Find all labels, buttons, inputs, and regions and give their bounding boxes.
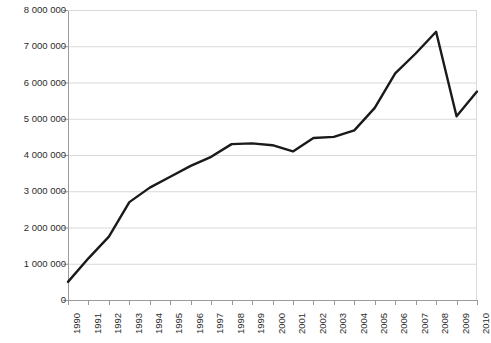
x-axis-tick-label: 2008: [440, 313, 450, 334]
x-axis-tick-label: 2010: [481, 313, 491, 334]
x-axis-tick-label: 2000: [277, 313, 287, 334]
x-axis-tick-label: 1999: [256, 313, 266, 334]
x-axis-tick-label: 1995: [174, 313, 184, 334]
x-axis-tick-label: 1993: [134, 313, 144, 334]
x-axis-tick-label: 2004: [359, 313, 369, 334]
line-chart: 01 000 0002 000 0003 000 0004 000 0005 0…: [0, 0, 491, 343]
x-axis-tick-label: 2003: [338, 313, 348, 334]
x-axis-tick-label: 1991: [93, 313, 103, 334]
x-axis-tick-label: 2006: [399, 313, 409, 334]
x-axis-tick-label: 1997: [215, 313, 225, 334]
x-axis-tick-label: 2005: [379, 313, 389, 334]
x-axis-tick-label: 1992: [113, 313, 123, 334]
x-axis-tick-label: 2002: [318, 313, 328, 334]
x-axis-tick-label: 1990: [72, 313, 82, 334]
x-axis-tick-label: 2009: [461, 313, 471, 334]
x-axis-tick-label: 1998: [236, 313, 246, 334]
x-axis-tick-label: 1996: [195, 313, 205, 334]
x-axis-tick-label: 1994: [154, 313, 164, 334]
x-axis-tick-labels: 1990199119921993199419951996199719981999…: [0, 0, 491, 343]
x-axis-tick-label: 2007: [420, 313, 430, 334]
x-axis-tick-label: 2001: [297, 313, 307, 334]
